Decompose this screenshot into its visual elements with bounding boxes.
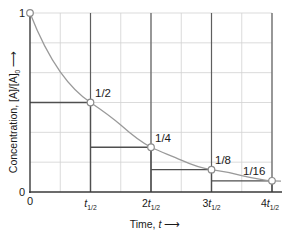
- x-tick-label-3t-half: 3t1/2: [202, 197, 220, 211]
- y-tick-label-1: 1: [19, 7, 25, 19]
- marker-quarter: [148, 144, 155, 151]
- annotation-one-eighth: 1/8: [215, 154, 231, 166]
- chart-svg: 1 0 0 t1/2 2t1/2 3t1/2 4t1/2 1/2 1/4 1/8…: [0, 0, 286, 237]
- marker-eighth: [208, 166, 215, 173]
- x-axis-title-arrow: ⟶: [164, 218, 180, 230]
- annotation-one-sixteenth: 1/16: [243, 165, 265, 177]
- x-tick-subscript-3: 1/2: [211, 204, 221, 211]
- marker-half: [87, 99, 94, 106]
- x-tick-subscript-4: 1/2: [270, 204, 280, 211]
- annotation-one-quarter: 1/4: [155, 132, 172, 144]
- half-life-decay-chart: 1 0 0 t1/2 2t1/2 3t1/2 4t1/2 1/2 1/4 1/8…: [0, 0, 286, 237]
- y-axis-title-text: Concentration, [A]/[A]: [7, 73, 19, 173]
- x-tick-label-4t-half: 4t1/2: [261, 197, 279, 211]
- marker-sixteenth: [269, 178, 276, 185]
- x-tick-label-2t-half: 2t1/2: [142, 197, 160, 211]
- annotation-one-half: 1/2: [95, 87, 111, 99]
- decay-curve: [30, 13, 281, 181]
- y-tick-label-0: 0: [19, 186, 25, 198]
- x-tick-subscript-1: 1/2: [87, 204, 97, 211]
- x-tick-label-t-half: t1/2: [84, 197, 97, 211]
- x-axis-title: Time, t ⟶: [130, 218, 181, 230]
- x-tick-subscript-2: 1/2: [151, 204, 161, 211]
- marker-origin: [27, 10, 34, 17]
- y-axis-title-arrow: ⟶: [7, 51, 19, 67]
- x-axis-title-text: Time,: [130, 218, 156, 230]
- x-tick-label-0: 0: [27, 195, 33, 207]
- y-axis-title: Concentration, [A]/[A]0 ⟶: [7, 51, 21, 173]
